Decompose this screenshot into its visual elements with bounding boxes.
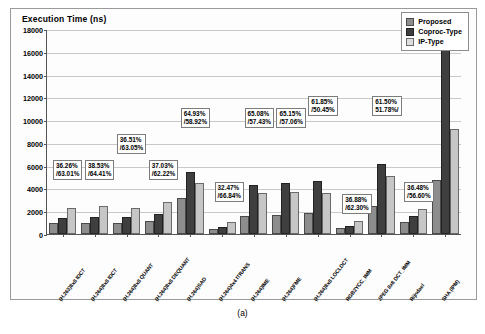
bar-ip-type	[386, 176, 395, 234]
bar-ip-type	[322, 193, 331, 234]
plot-area: 0200040006000800010000120001400016000180…	[46, 30, 461, 235]
chart-legend: Proposed Coproc-Type IP-Type	[401, 12, 469, 51]
legend-label-proposed: Proposed	[418, 17, 451, 26]
callout-line: /57.43%	[248, 118, 271, 126]
bar-coproc-type	[409, 216, 418, 234]
figure-root: Execution Time (ns) Proposed Coproc-Type…	[0, 0, 485, 334]
bar-group	[143, 30, 175, 234]
bar-coproc-type	[122, 217, 131, 234]
bar-ip-type	[195, 183, 204, 234]
bar-proposed	[113, 223, 122, 234]
callout-line: /57.06%	[279, 118, 302, 126]
x-axis-labels: (H.263)8x8 IDCT(H.264)8x8 IDCT(H.264)8x8…	[46, 238, 461, 296]
callout-line: /58.92%	[184, 118, 207, 126]
legend-swatch-coproc-type-icon	[406, 28, 414, 36]
callout-line: /63.01%	[56, 170, 79, 178]
bar-proposed	[336, 228, 345, 234]
callout-line: /62.22%	[152, 170, 175, 178]
bar-ip-type	[99, 206, 108, 234]
data-callout: 61.85%/50.45%	[308, 96, 337, 116]
legend-swatch-ip-type-icon	[406, 38, 414, 46]
callout-line: 65.08%	[248, 110, 271, 118]
bar-coproc-type	[90, 217, 99, 234]
bar-ip-type	[131, 208, 140, 234]
x-axis-tick-label: (H.264)4x4 ITRANS	[217, 261, 251, 302]
bar-coproc-type	[377, 164, 386, 234]
y-axis-tick-label: 2000	[27, 208, 43, 217]
bar-proposed	[304, 213, 313, 234]
y-axis-tick-label: 10000	[23, 117, 43, 126]
bar-proposed	[272, 215, 281, 234]
y-axis-tick-mark	[44, 235, 47, 236]
legend-label-coproc-type: Coproc-Type	[418, 27, 462, 36]
y-axis-tick-label: 8000	[27, 139, 43, 148]
bar-ip-type	[227, 222, 236, 234]
bar-group	[111, 30, 143, 234]
bar-coproc-type	[58, 218, 67, 234]
callout-line: 36.51%	[120, 136, 143, 144]
data-callout: 64.93%/58.92%	[181, 108, 210, 128]
callout-line: 36.88%	[345, 196, 368, 204]
data-callout: 65.15%/57.06%	[276, 108, 305, 128]
callout-line: 61.85%	[311, 98, 334, 106]
bar-ip-type	[67, 208, 76, 234]
callout-line: 51.78%/	[375, 106, 398, 114]
bar-ip-type	[354, 221, 363, 234]
bar-ip-type	[258, 193, 267, 234]
bar-proposed	[81, 223, 90, 234]
legend-label-ip-type: IP-Type	[418, 37, 443, 46]
x-axis-tick-label: JPEG 8x8 DCT_IMM	[376, 259, 411, 302]
legend-item-coproc-type: Coproc-Type	[406, 27, 462, 36]
data-callout: 36.26%/63.01%	[53, 160, 82, 180]
legend-item-proposed: Proposed	[406, 17, 462, 26]
y-axis-tick-label: 12000	[23, 94, 43, 103]
bar-proposed	[240, 216, 249, 235]
bar-ip-type	[163, 202, 172, 234]
bar-ip-type	[418, 209, 427, 234]
data-callout: 37.03%/62.22%	[149, 160, 178, 180]
bar-coproc-type	[345, 226, 354, 234]
bar-proposed	[145, 221, 154, 234]
y-axis-tick-label: 4000	[27, 185, 43, 194]
callout-line: /62.30%	[345, 204, 368, 212]
data-callout: 36.88%/62.30%	[342, 194, 371, 214]
bar-group	[429, 30, 461, 234]
callout-line: 65.15%	[279, 110, 302, 118]
bar-ip-type	[450, 129, 459, 234]
callout-line: /66.84%	[218, 192, 241, 200]
bar-coproc-type	[154, 214, 163, 234]
bar-group	[206, 30, 238, 234]
data-callout: 65.08%/57.43%	[245, 108, 274, 128]
callout-line: /50.45%	[311, 106, 334, 114]
callout-line: /63.05%	[120, 144, 143, 152]
x-axis-tick-label: (H.264)8x8 DEQUANT	[153, 256, 191, 302]
bar-coproc-type	[186, 172, 195, 234]
bar-proposed	[177, 198, 186, 234]
x-axis-tick-label: (H.264)8x8 LOCLDCT	[313, 257, 350, 302]
legend-swatch-proposed-icon	[406, 18, 414, 26]
bar-coproc-type	[441, 38, 450, 234]
legend-item-ip-type: IP-Type	[406, 37, 462, 46]
y-axis-tick-label: 0	[39, 231, 43, 240]
callout-line: 61.50%	[375, 98, 398, 106]
bar-coproc-type	[249, 185, 258, 234]
callout-line: 37.03%	[152, 162, 175, 170]
callout-line: /64.41%	[88, 170, 111, 178]
bar-proposed	[400, 222, 409, 234]
bar-group	[397, 30, 429, 234]
callout-line: 32.47%	[218, 184, 241, 192]
y-axis-tick-label: 18000	[23, 26, 43, 35]
bar-group	[302, 30, 334, 234]
data-callout: 38.53%/64.41%	[85, 160, 114, 180]
bar-proposed	[49, 223, 58, 234]
y-axis-title: Execution Time (ns)	[22, 14, 106, 24]
figure-caption: (a)	[0, 308, 485, 318]
callout-line: 36.26%	[56, 162, 79, 170]
y-axis-tick-label: 16000	[23, 48, 43, 57]
data-callout: 36.51%/63.05%	[117, 134, 146, 154]
data-callout: 32.47%/66.84%	[215, 182, 244, 202]
bar-proposed	[209, 229, 218, 234]
bar-group	[174, 30, 206, 234]
bar-group	[47, 30, 79, 234]
callout-line: 38.53%	[88, 162, 111, 170]
